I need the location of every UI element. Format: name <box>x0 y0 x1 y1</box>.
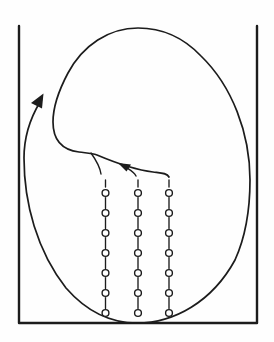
bead-circle <box>166 230 173 237</box>
bead-circle <box>102 250 109 257</box>
bead-circle <box>102 230 109 237</box>
diagram-page <box>0 0 274 342</box>
bead-circle <box>102 270 109 277</box>
bead-circle <box>102 210 109 217</box>
bead-circle <box>135 310 142 317</box>
bead-chains-layer <box>102 180 172 316</box>
bead-chain <box>135 180 142 316</box>
bead-circle <box>166 290 173 297</box>
bead-circle <box>135 270 142 277</box>
bead-circle <box>135 210 142 217</box>
bead-chain <box>166 180 173 316</box>
diagram-canvas <box>0 0 274 342</box>
bead-chain <box>102 180 109 316</box>
bead-circle <box>166 210 173 217</box>
bead-circle <box>102 290 109 297</box>
bead-circle <box>135 290 142 297</box>
bead-circle <box>166 310 173 317</box>
bead-circle <box>135 250 142 257</box>
bead-circle <box>135 230 142 237</box>
bead-circle <box>166 250 173 257</box>
bead-circle <box>166 190 173 197</box>
bead-circle <box>102 190 109 197</box>
circulation-streamline <box>24 28 250 323</box>
bead-circle <box>102 310 109 317</box>
bead-circle <box>166 270 173 277</box>
flow-arrowhead-inner <box>118 163 131 172</box>
bead-circle <box>135 190 142 197</box>
